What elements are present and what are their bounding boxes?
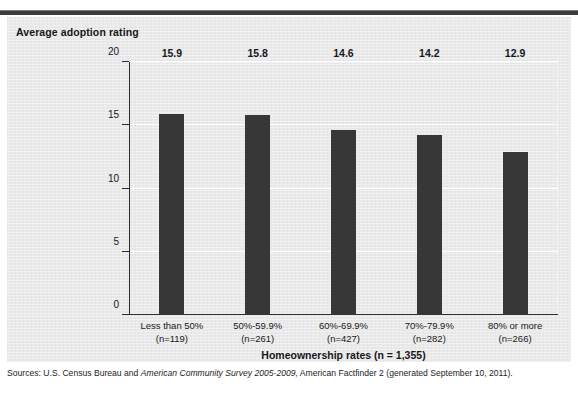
bar-value-label: 14.6	[333, 47, 353, 59]
x-tick-label-count: (n=261)	[215, 333, 301, 346]
ytick-label-0: 0	[89, 299, 119, 310]
bar[interactable]	[245, 115, 270, 315]
bar-slot: 15.9	[129, 62, 215, 315]
x-tick-label: 80% or more (n=266)	[472, 320, 558, 345]
ytick-0	[122, 314, 129, 315]
x-tick-label-count: (n=282)	[386, 333, 472, 346]
source-note: Sources: U.S. Census Bureau and American…	[7, 368, 571, 378]
bar-slot: 15.8	[215, 62, 301, 315]
bar-value-label: 14.2	[419, 47, 439, 59]
ytick-label-20: 20	[89, 46, 119, 57]
ytick-15	[122, 124, 129, 125]
bar[interactable]	[503, 152, 528, 315]
x-tick-label-category: Less than 50%	[129, 320, 215, 333]
ytick-5	[122, 251, 129, 252]
plot-area: 20 15 10 5 0 15.9 15.8 14.6	[129, 62, 558, 315]
bar[interactable]	[159, 114, 184, 315]
bar-value-label: 12.9	[505, 47, 525, 59]
ytick-label-5: 5	[89, 235, 119, 246]
source-note-italic: American Community Survey 2005-2009,	[141, 368, 298, 378]
source-note-prefix: Sources: U.S. Census Bureau and	[7, 368, 141, 378]
x-tick-label: 50%-59.9% (n=261)	[215, 320, 301, 345]
x-tick-label: 70%-79.9% (n=282)	[386, 320, 472, 345]
x-tick-label: Less than 50% (n=119)	[129, 320, 215, 345]
x-tick-label-count: (n=266)	[472, 333, 558, 346]
bar-value-label: 15.8	[247, 47, 267, 59]
y-axis-title: Average adoption rating	[16, 26, 139, 38]
top-divider-rule	[0, 10, 578, 15]
x-tick-label-count: (n=119)	[129, 333, 215, 346]
bar[interactable]	[417, 135, 442, 315]
x-tick-labels: Less than 50% (n=119) 50%-59.9% (n=261) …	[129, 320, 558, 345]
x-tick-label-category: 60%-69.9%	[301, 320, 387, 333]
bar-series: 15.9 15.8 14.6 14.2 12.9	[129, 62, 558, 315]
bar-slot: 14.2	[386, 62, 472, 315]
ytick-10	[122, 188, 129, 189]
x-tick-label-category: 70%-79.9%	[386, 320, 472, 333]
ytick-20	[122, 61, 129, 62]
bar-value-label: 15.9	[162, 47, 182, 59]
ytick-label-15: 15	[89, 109, 119, 120]
x-tick-label-count: (n=427)	[301, 333, 387, 346]
x-tick-label: 60%-69.9% (n=427)	[301, 320, 387, 345]
cropped-caption-remnant	[0, 0, 578, 3]
x-tick-label-category: 50%-59.9%	[215, 320, 301, 333]
bar[interactable]	[331, 130, 356, 315]
bar-slot: 12.9	[472, 62, 558, 315]
bar-slot: 14.6	[301, 62, 387, 315]
source-note-suffix: American Factfinder 2 (generated Septemb…	[298, 368, 513, 378]
figure-panel: Average adoption rating 20 15 10 5 0 15.…	[7, 17, 571, 362]
x-tick-label-category: 80% or more	[472, 320, 558, 333]
ytick-label-10: 10	[89, 172, 119, 183]
x-axis-title: Homeownership rates (n = 1,355)	[129, 349, 558, 361]
